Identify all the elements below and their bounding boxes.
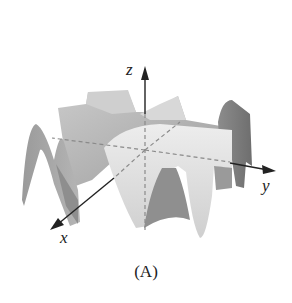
figure-caption: (A) (0, 262, 292, 282)
y-axis-label: y (262, 177, 270, 194)
surface-plot (0, 0, 292, 303)
surface-right-panel (214, 166, 232, 190)
z-axis-label: z (126, 61, 133, 78)
surface-plot-figure: z y x (A) (0, 0, 292, 303)
y-axis-arrowhead (262, 165, 276, 174)
surface-top-right-ridge (140, 96, 186, 120)
x-axis-label: x (60, 229, 68, 246)
z-axis-arrowhead (141, 66, 149, 80)
